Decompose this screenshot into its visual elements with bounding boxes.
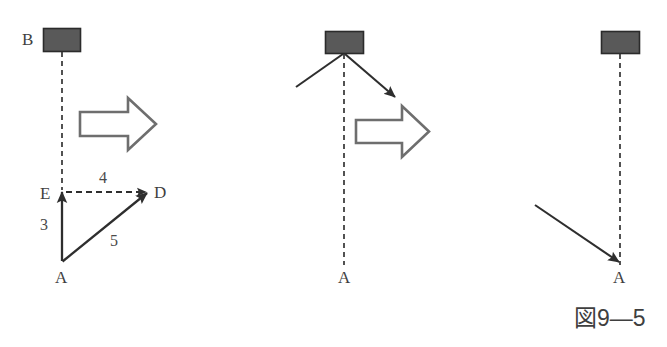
figure-caption: 図9—5 bbox=[574, 299, 646, 333]
block-right bbox=[602, 32, 640, 54]
label-side-3: 3 bbox=[40, 217, 48, 233]
label-a-middle: A bbox=[338, 269, 350, 286]
label-side-5: 5 bbox=[110, 233, 118, 249]
label-side-4: 4 bbox=[99, 170, 107, 186]
label-a-right: A bbox=[613, 269, 625, 286]
incoming-velocity-arrow-right bbox=[535, 205, 619, 262]
label-d: D bbox=[154, 184, 166, 201]
middle-block-arrow-icon bbox=[356, 106, 429, 157]
label-b: B bbox=[22, 31, 33, 48]
label-e: E bbox=[40, 185, 50, 202]
outgoing-velocity-arrow-middle bbox=[345, 54, 395, 97]
label-a-left: A bbox=[55, 269, 67, 286]
incoming-velocity-arrow-middle bbox=[296, 54, 343, 87]
left-block-arrow-icon bbox=[80, 98, 156, 150]
figure-container: B E D A 3 4 5 A A 図9—5 bbox=[0, 0, 667, 347]
block-b bbox=[44, 29, 81, 52]
block-middle bbox=[326, 32, 364, 54]
vector-a-to-d bbox=[63, 193, 148, 262]
